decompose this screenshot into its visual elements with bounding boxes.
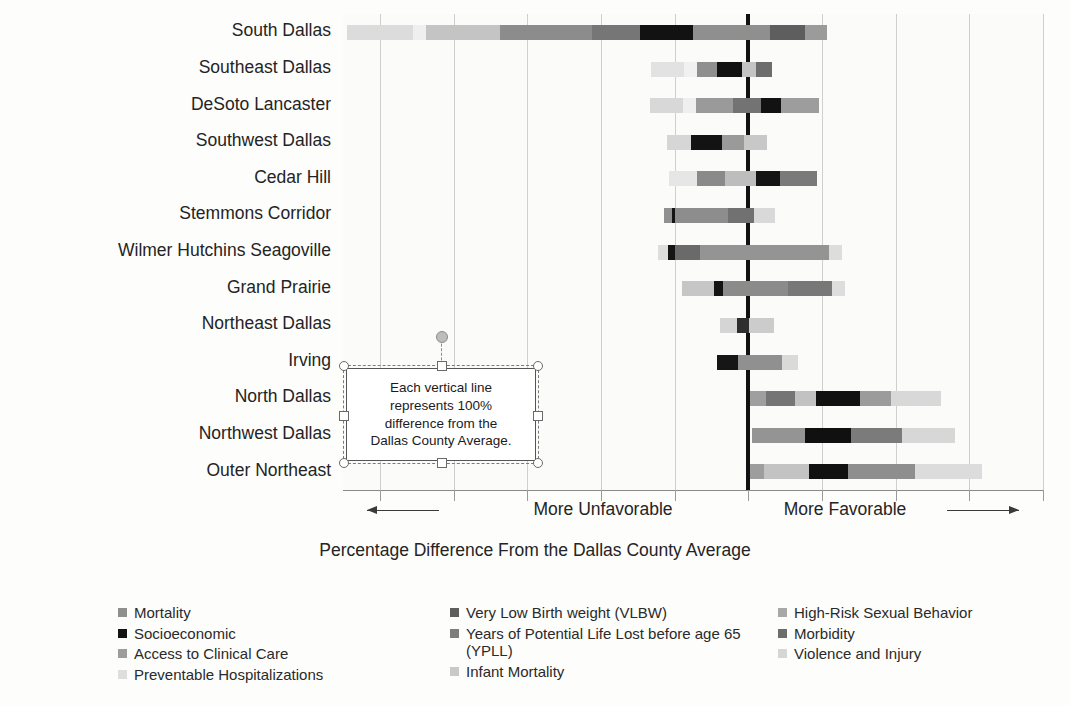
bar-segment — [829, 245, 842, 260]
legend-item: High-Risk Sexual Behavior — [778, 604, 1068, 622]
annotation-textbox[interactable]: Each vertical linerepresents 100%differe… — [343, 365, 539, 464]
resize-handle-w[interactable] — [339, 411, 349, 421]
legend-item: Violence and Injury — [778, 645, 1068, 663]
legend-swatch — [450, 608, 459, 617]
y-axis-label: Northwest Dallas — [13, 425, 343, 443]
selection-frame — [343, 365, 539, 464]
x-axis-tick — [748, 490, 749, 501]
bar-segment — [788, 281, 832, 296]
x-axis-tick — [675, 490, 676, 501]
rotate-handle-icon[interactable] — [436, 331, 448, 343]
legend-swatch — [450, 667, 459, 676]
bar-segment — [738, 355, 782, 370]
bar-segment — [592, 25, 640, 40]
y-axis-label: Southeast Dallas — [13, 59, 343, 77]
bar-segment — [697, 62, 717, 77]
legend-label: Access to Clinical Care — [134, 645, 288, 663]
bar-segment — [860, 391, 891, 406]
legend: MortalitySocioeconomicAccess to Clinical… — [0, 604, 1070, 706]
chart-row — [343, 234, 1043, 271]
legend-swatch — [118, 608, 127, 617]
y-axis-label: Outer Northeast — [13, 462, 343, 480]
legend-column: MortalitySocioeconomicAccess to Clinical… — [118, 604, 448, 687]
resize-handle-ne[interactable] — [533, 361, 543, 371]
right-arrow-icon — [947, 510, 1019, 511]
bar-segment — [347, 25, 413, 40]
y-axis-labels: South DallasSoutheast DallasDeSoto Lanca… — [0, 14, 343, 490]
bar-segment — [675, 208, 728, 223]
y-axis-label: Grand Prairie — [13, 279, 343, 297]
bar-segment — [720, 318, 737, 333]
resize-handle-s[interactable] — [437, 458, 447, 468]
bar-segment — [766, 391, 795, 406]
bar-segment — [714, 281, 723, 296]
legend-label: Years of Potential Life Lost before age … — [466, 625, 770, 660]
resize-handle-nw[interactable] — [339, 361, 349, 371]
legend-label: Infant Mortality — [466, 663, 564, 681]
bar-segment — [915, 464, 981, 479]
legend-label: Very Low Birth weight (VLBW) — [466, 604, 667, 622]
legend-swatch — [118, 670, 127, 679]
legend-label: Violence and Injury — [794, 645, 921, 663]
bar-segment — [500, 25, 592, 40]
y-axis-label: Cedar Hill — [13, 169, 343, 187]
bar-segment — [717, 62, 743, 77]
legend-swatch — [450, 629, 459, 638]
resize-handle-se[interactable] — [533, 458, 543, 468]
bar-segment — [809, 464, 847, 479]
legend-swatch — [778, 608, 787, 617]
legend-item: Years of Potential Life Lost before age … — [450, 625, 770, 660]
bar-segment — [832, 281, 845, 296]
bar-segment — [664, 208, 671, 223]
gridline — [1043, 14, 1044, 490]
chart-figure: South DallasSoutheast DallasDeSoto Lanca… — [0, 0, 1070, 706]
bar-segment — [691, 135, 722, 150]
legend-item: Infant Mortality — [450, 663, 770, 681]
stacked-bar — [669, 171, 817, 186]
stacked-bar — [717, 355, 798, 370]
bar-segment — [693, 25, 770, 40]
legend-column: High-Risk Sexual BehaviorMorbidityViolen… — [778, 604, 1068, 666]
x-axis-tick — [822, 490, 823, 501]
bar-segment — [851, 428, 903, 443]
bar-segment — [733, 98, 761, 113]
legend-label: High-Risk Sexual Behavior — [794, 604, 972, 622]
legend-item: Access to Clinical Care — [118, 645, 448, 663]
bar-segment — [848, 464, 916, 479]
stacked-bar — [750, 464, 981, 479]
y-axis-label: Southwest Dallas — [13, 132, 343, 150]
x-axis-tick — [601, 490, 602, 501]
x-axis-tick — [896, 490, 897, 501]
bar-segment — [750, 464, 763, 479]
x-axis-tick — [969, 490, 970, 501]
bar-segment — [805, 25, 827, 40]
resize-handle-sw[interactable] — [339, 458, 349, 468]
bar-segment — [640, 25, 693, 40]
chart-row — [343, 160, 1043, 197]
resize-handle-e[interactable] — [533, 411, 543, 421]
y-axis-label: Irving — [13, 352, 343, 370]
chart-row — [343, 270, 1043, 307]
y-axis-label: South Dallas — [13, 22, 343, 40]
chart-row — [343, 124, 1043, 161]
bar-segment — [668, 245, 675, 260]
bar-segment — [891, 391, 941, 406]
stacked-bar — [664, 208, 774, 223]
bar-segment — [744, 135, 768, 150]
bar-segment — [667, 135, 691, 150]
x-axis-title: Percentage Difference From the Dallas Co… — [0, 540, 1070, 561]
bar-segment — [756, 62, 772, 77]
legend-item: Preventable Hospitalizations — [118, 666, 448, 684]
bar-segment — [700, 245, 829, 260]
chart-row — [343, 87, 1043, 124]
legend-swatch — [118, 629, 127, 638]
bar-segment — [754, 208, 775, 223]
bar-segment — [413, 25, 426, 40]
bar-segment — [722, 135, 744, 150]
stacked-bar — [347, 25, 827, 40]
bar-segment — [752, 428, 805, 443]
bar-segment — [723, 281, 788, 296]
bar-segment — [761, 98, 781, 113]
bar-segment — [651, 62, 684, 77]
resize-handle-n[interactable] — [437, 361, 447, 371]
